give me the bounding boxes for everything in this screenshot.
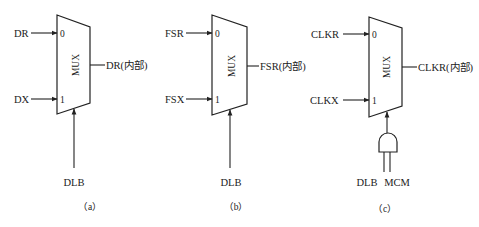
select-label-b: DLB bbox=[221, 177, 242, 188]
caption-c: （c） bbox=[373, 203, 397, 214]
input1-label-b: FSX bbox=[165, 94, 185, 105]
pin0-label-b: 0 bbox=[215, 29, 220, 39]
mux-label-c: MUX bbox=[382, 56, 392, 78]
pin0-label-a: 0 bbox=[60, 29, 65, 39]
and-gate-icon bbox=[379, 133, 397, 152]
panel-a: MUX DR 0 DX 1 DR(内部) DLB （a） bbox=[14, 15, 148, 212]
mux-label-a: MUX bbox=[71, 54, 81, 76]
caption-a: （a） bbox=[78, 201, 102, 212]
caption-b: （b） bbox=[224, 201, 249, 212]
panel-c: MUX CLKR 0 CLKX 1 CLKR(内部) DLB MCM （c） bbox=[310, 17, 474, 214]
select-label-a: DLB bbox=[64, 177, 85, 188]
pin0-label-c: 0 bbox=[372, 30, 377, 40]
select-label-dlb-c: DLB bbox=[357, 177, 378, 188]
select-label-mcm-c: MCM bbox=[384, 177, 410, 188]
panel-b: MUX FSR 0 FSX 1 FSR(内部) DLB （b） bbox=[165, 15, 306, 212]
input0-label-c: CLKR bbox=[311, 29, 339, 40]
output-label-b: FSR(内部) bbox=[260, 60, 306, 73]
pin1-label-a: 1 bbox=[60, 95, 65, 105]
input1-label-c: CLKX bbox=[310, 95, 339, 106]
input0-label-b: FSR bbox=[165, 28, 184, 39]
input1-label-a: DX bbox=[14, 94, 30, 105]
mux-label-b: MUX bbox=[227, 55, 237, 77]
output-label-a: DR(内部) bbox=[106, 59, 148, 72]
output-label-c: CLKR(内部) bbox=[418, 61, 474, 74]
mux-loopback-diagram: MUX DR 0 DX 1 DR(内部) DLB （a） MUX FSR 0 F… bbox=[0, 0, 479, 227]
pin1-label-c: 1 bbox=[372, 96, 377, 106]
input0-label-a: DR bbox=[14, 28, 29, 39]
pin1-label-b: 1 bbox=[215, 95, 220, 105]
